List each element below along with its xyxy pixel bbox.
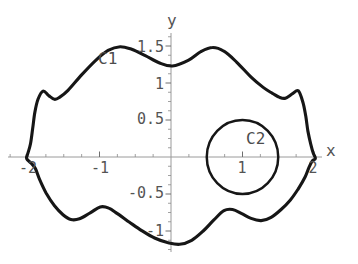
x-tick-label-neg1: -1 bbox=[91, 161, 109, 176]
curve-label-c1: C1 bbox=[98, 51, 117, 67]
y-tick-label-1: 1 bbox=[120, 77, 164, 92]
x-tick-label-2: 2 bbox=[308, 161, 317, 176]
x-tick-label-1: 1 bbox=[237, 161, 246, 176]
y-tick-label-neg1: -1 bbox=[120, 224, 164, 239]
plot-canvas bbox=[0, 0, 358, 264]
plot-figure: y x C1 C2 -2 -1 1 2 -1 -0.5 0.5 1 1.5 bbox=[0, 0, 358, 264]
x-tick-label-neg2: -2 bbox=[19, 161, 37, 176]
y-tick-label-neg05: -0.5 bbox=[120, 186, 164, 201]
curve-label-c2: C2 bbox=[246, 131, 265, 147]
x-axis-title: x bbox=[326, 143, 336, 159]
y-axis-title: y bbox=[167, 13, 177, 29]
y-tick-label-05: 0.5 bbox=[120, 112, 164, 127]
y-tick-label-15: 1.5 bbox=[120, 40, 164, 55]
